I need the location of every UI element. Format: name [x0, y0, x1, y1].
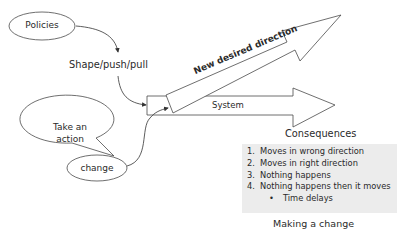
consequence-item: 2.Moves in right direction	[247, 158, 397, 170]
consequence-item: 1.Moves in wrong direction	[247, 146, 397, 158]
connector-shape-to-system	[118, 76, 146, 105]
consequences-list: 1.Moves in wrong direction 2.Moves in ri…	[242, 144, 397, 205]
connector-change-to-system	[127, 108, 168, 166]
consequence-item: 3.Nothing happens	[247, 170, 397, 182]
shape-push-pull-label: Shape/push/pull	[69, 59, 148, 70]
consequence-item: 4.Nothing happens then it moves	[247, 181, 397, 193]
system-arrow-label: System	[212, 100, 244, 110]
take-action-label: Take an action	[45, 121, 95, 145]
consequences-heading: Consequences	[285, 128, 356, 139]
take-action-line1: Take an	[45, 121, 95, 133]
consequences-box: 1.Moves in wrong direction 2.Moves in ri…	[242, 144, 397, 213]
connector-policies-to-shape	[76, 26, 118, 52]
diagram-title: Making a change	[273, 218, 354, 229]
policies-label: Policies	[22, 19, 62, 31]
consequence-subitem: •Time delays	[247, 193, 397, 205]
bullet-icon: •	[269, 193, 283, 205]
take-action-line2: action	[45, 133, 95, 145]
change-label: change	[74, 162, 120, 174]
